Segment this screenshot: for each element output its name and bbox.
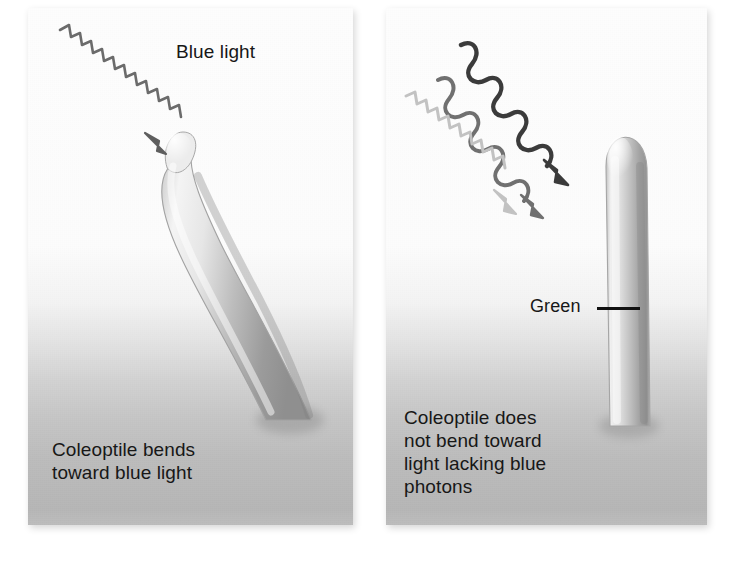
coleoptile-base-shadow	[256, 406, 324, 434]
coleoptile-tip	[165, 132, 195, 173]
coleoptile-body-bent	[162, 146, 311, 420]
coleoptile-sheen	[615, 160, 617, 420]
coleoptile-shadow-edge	[640, 166, 644, 420]
blue-light-beam	[60, 25, 181, 117]
coleoptile-tip-highlight	[607, 137, 633, 179]
medium-wave-beam	[438, 78, 528, 201]
coleoptile-shadow-edge	[198, 176, 309, 415]
light-zigzag-arrowhead	[494, 190, 516, 214]
coleoptile-base-shadow	[599, 414, 659, 438]
figure-root: Blue light Coleoptile bends toward blue …	[0, 0, 729, 561]
coleoptile-tip-highlight	[166, 133, 192, 165]
dark-wave-beam	[461, 43, 551, 166]
green-leader-line	[597, 307, 640, 310]
blue-light-label: Blue light	[176, 41, 255, 63]
coleoptile-body-upright	[606, 137, 650, 426]
coleoptile-sheen	[171, 166, 271, 412]
blue-light-arrowhead	[145, 133, 166, 154]
medium-wave-arrowhead	[521, 195, 543, 218]
green-callout-label: Green	[530, 296, 581, 318]
right-panel-caption: Coleoptile does not bend toward light la…	[404, 406, 546, 498]
dark-wave-arrowhead	[544, 160, 568, 185]
light-zigzag-beam	[406, 92, 505, 168]
left-panel-caption: Coleoptile bends toward blue light	[52, 438, 195, 484]
